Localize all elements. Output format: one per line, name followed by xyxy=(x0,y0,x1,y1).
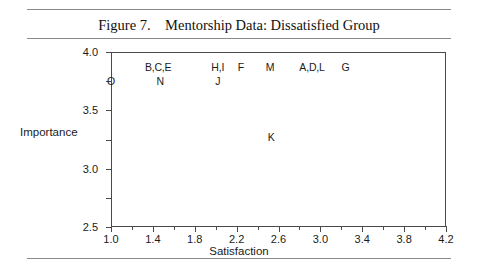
y-tick: 4.0 xyxy=(106,52,111,53)
x-tick xyxy=(320,227,321,232)
data-point-label: O xyxy=(107,75,115,87)
x-tick-label: 2.2 xyxy=(229,233,244,245)
y-tick: 1.5 xyxy=(106,198,111,199)
y-axis-title: Importance xyxy=(20,126,78,138)
x-tick-minor xyxy=(258,227,259,230)
x-tick-minor xyxy=(299,227,300,230)
x-tick-label: 1.0 xyxy=(103,233,118,245)
x-tick-label: 1.8 xyxy=(187,233,202,245)
y-tick-label: 2.5 xyxy=(83,221,98,233)
data-point-label: M xyxy=(266,61,275,73)
x-tick-minor xyxy=(341,227,342,230)
y-tick: 3.0 xyxy=(106,110,111,111)
figure-rule-top xyxy=(27,9,451,10)
x-tick-label: 4.2 xyxy=(438,233,453,245)
x-tick-label: 2.6 xyxy=(271,233,286,245)
data-point-label: B,C,E xyxy=(145,61,171,73)
x-tick-minor xyxy=(425,227,426,230)
plot-border-top xyxy=(111,52,446,53)
figure-rule-bottom xyxy=(27,258,451,259)
y-tick: 2.0 xyxy=(106,169,111,170)
y-tick: 2.5 xyxy=(106,140,111,141)
data-point-label: F xyxy=(238,61,244,73)
x-tick xyxy=(362,227,363,232)
scatter-plot: 1.01.52.02.53.03.54.0 1.01.41.82.22.63.0… xyxy=(111,52,446,227)
x-tick xyxy=(446,227,447,232)
y-tick-label: 4.0 xyxy=(83,46,98,58)
x-tick xyxy=(195,227,196,232)
plot-border-right xyxy=(445,52,446,227)
x-tick-minor xyxy=(132,227,133,230)
x-tick xyxy=(237,227,238,232)
data-point-label: H,I xyxy=(211,61,224,73)
figure-rule-under-title xyxy=(27,38,451,39)
data-point-label: K xyxy=(268,131,275,143)
x-tick xyxy=(111,227,112,232)
data-point-label: N xyxy=(157,75,164,87)
x-tick-label: 3.8 xyxy=(396,233,411,245)
data-point-label: G xyxy=(342,61,350,73)
figure-title: Figure 7. Mentorship Data: Dissatisfied … xyxy=(0,17,478,34)
x-tick xyxy=(404,227,405,232)
x-tick-label: 3.0 xyxy=(313,233,328,245)
x-tick xyxy=(279,227,280,232)
x-axis-title: Satisfaction xyxy=(0,245,478,257)
y-tick-label: 3.0 xyxy=(83,163,98,175)
x-tick-minor xyxy=(383,227,384,230)
data-point-label: A,D,L xyxy=(299,61,324,73)
x-tick-minor xyxy=(216,227,217,230)
x-tick-minor xyxy=(174,227,175,230)
x-tick-label: 3.4 xyxy=(355,233,370,245)
x-tick xyxy=(153,227,154,232)
data-point-label: J xyxy=(215,75,220,87)
x-tick-label: 1.4 xyxy=(145,233,160,245)
y-tick-label: 3.5 xyxy=(83,104,98,116)
